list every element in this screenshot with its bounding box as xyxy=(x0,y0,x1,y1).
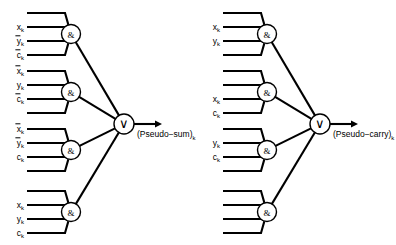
pseudo-carry-and-gate-2-input-label-3: xk xyxy=(213,94,221,105)
pseudo-carry-and-gate-2-input-label-4: ck xyxy=(213,108,221,119)
pseudo-sum-and-gate-3-input-label-1-text: xk xyxy=(17,124,25,135)
pseudo-sum-and-gate-3-input-label-1: xk xyxy=(15,124,25,135)
pseudo-sum-and-gate-3-input-label-2-text: yk xyxy=(17,138,25,149)
pseudo-sum-and-gate-3-input-label-2: yk xyxy=(15,138,25,149)
pseudo-sum-and-gate-1-input-label-4: ck xyxy=(15,50,25,61)
pseudo-carry-output-label: (Pseudo−carry)k xyxy=(333,129,395,141)
pseudo-sum-or-gate-or-symbol: ∨ xyxy=(119,116,129,131)
pseudo-carry-and-gate-1-input-label-3-text: yk xyxy=(213,36,221,47)
pseudo-carry-and-gate-3-output-wire xyxy=(276,128,311,145)
pseudo-carry-and-gate-3-and-symbol: & xyxy=(263,146,270,156)
pseudo-sum-and-gate-3-output-wire xyxy=(80,128,115,145)
pseudo-sum-and-gate-2: xkykck& xyxy=(15,66,115,119)
pseudo-carry-and-gate-2-input-label-4-text: ck xyxy=(213,108,221,119)
pseudo-carry-and-gate-4-input-wire-4 xyxy=(223,221,264,233)
pseudo-sum-and-gate-1-input-label-2-text: xk xyxy=(17,22,25,33)
pseudo-sum-and-gate-4-input-label-2-text: xk xyxy=(17,200,25,211)
pseudo-sum-and-gate-1-input-wire-1 xyxy=(27,13,68,25)
pseudo-sum-and-gate-2-input-label-1-text: xk xyxy=(17,66,25,77)
pseudo-sum-and-gate-4-input-label-3: yk xyxy=(17,214,25,225)
pseudo-sum-and-gate-4-input-label-4: ck xyxy=(17,228,25,239)
pseudo-sum-output-label: (Pseudo−sum)k xyxy=(137,129,197,141)
pseudo-sum-and-gate-4-input-label-3-text: yk xyxy=(17,214,25,225)
pseudo-sum-and-gate-4-input-wire-1 xyxy=(27,191,68,203)
pseudo-carry-output-arrowhead-icon xyxy=(351,120,358,127)
pseudo-carry-and-gate-4-output-wire xyxy=(272,133,315,204)
pseudo-sum-and-gate-4-input-wire-4 xyxy=(27,221,68,233)
pseudo-sum-and-gate-1-output-wire xyxy=(76,42,119,115)
pseudo-sum-and-gate-4-input-label-4-text: ck xyxy=(17,228,25,239)
pseudo-carry-and-gate-1-and-symbol: & xyxy=(263,30,270,40)
pseudo-sum-and-gate-1-input-label-2: xk xyxy=(17,22,25,33)
pseudo-carry-and-gate-3-input-label-3-text: ck xyxy=(213,152,221,163)
pseudo-sum-and-gate-4-and-symbol: & xyxy=(67,208,74,218)
pseudo-sum-and-gate-2-input-label-2: yk xyxy=(17,80,25,91)
pseudo-sum-and-gate-2-input-wire-1 xyxy=(27,71,68,83)
pseudo-carry-and-gate-1-input-label-2: xk xyxy=(213,22,221,33)
pseudo-sum-and-gate-3-input-wire-1 xyxy=(27,129,68,141)
pseudo-carry-and-gate-3-input-wire-1 xyxy=(223,129,264,141)
logic-diagram-figure: xkykck&xkykck&xkykck&xkykck&∨(Pseudo−sum… xyxy=(0,0,396,245)
pseudo-sum-and-gate-2-input-label-3: ck xyxy=(15,94,25,105)
pseudo-sum-and-gate-1-input-wire-4 xyxy=(27,43,68,55)
pseudo-sum-and-gate-1-input-label-3-text: yk xyxy=(17,36,25,47)
circuit-layer: xkykck&xkykck&xkykck&xkykck&∨(Pseudo−sum… xyxy=(15,13,395,239)
pseudo-sum-and-gate-2-input-label-3-text: ck xyxy=(17,94,25,105)
pseudo-sum-and-gate-4-output-wire xyxy=(76,133,119,204)
pseudo-carry: xkyk&xkck&ykck&&∨(Pseudo−carry)k xyxy=(213,13,396,233)
pseudo-carry-and-gate-3-input-label-3: ck xyxy=(213,152,221,163)
pseudo-carry-and-gate-3-input-label-2-text: yk xyxy=(213,138,221,149)
pseudo-sum-and-gate-3-input-label-3-text: ck xyxy=(17,152,25,163)
pseudo-carry-and-gate-2-and-symbol: & xyxy=(263,88,270,98)
pseudo-carry-and-gate-2-input-wire-4 xyxy=(223,101,264,113)
pseudo-sum-and-gate-1-input-label-3: yk xyxy=(15,36,25,47)
pseudo-carry-and-gate-1-input-wire-1 xyxy=(223,13,264,25)
pseudo-carry-and-gate-1-output-wire xyxy=(272,42,315,115)
pseudo-carry-and-gate-1-input-label-2-text: xk xyxy=(213,22,221,33)
pseudo-carry-or-gate-or-symbol: ∨ xyxy=(315,116,325,131)
pseudo-carry-and-gate-4-and-symbol: & xyxy=(263,208,270,218)
pseudo-carry-and-gate-1-input-wire-4 xyxy=(223,43,264,55)
pseudo-carry-and-gate-3-input-label-2: yk xyxy=(213,138,221,149)
pseudo-sum: xkykck&xkykck&xkykck&xkykck&∨(Pseudo−sum… xyxy=(15,13,196,239)
circuit-canvas: xkykck&xkykck&xkykck&xkykck&∨(Pseudo−sum… xyxy=(0,0,396,245)
pseudo-carry-and-gate-1-input-label-3: yk xyxy=(213,36,221,47)
pseudo-sum-and-gate-1-and-symbol: & xyxy=(67,30,74,40)
pseudo-sum-and-gate-3-input-label-3: ck xyxy=(17,152,25,163)
pseudo-sum-and-gate-3-input-wire-4 xyxy=(27,159,68,171)
pseudo-sum-and-gate-2-and-symbol: & xyxy=(67,88,74,98)
pseudo-sum-output-arrowhead-icon xyxy=(155,120,162,127)
pseudo-carry-and-gate-2-input-wire-1 xyxy=(223,71,264,83)
pseudo-sum-and-gate-2-input-wire-4 xyxy=(27,101,68,113)
pseudo-sum-and-gate-4-input-label-2: xk xyxy=(17,200,25,211)
pseudo-carry-and-gate-3-input-wire-4 xyxy=(223,159,264,171)
pseudo-carry-and-gate-2: xkck& xyxy=(213,71,312,119)
pseudo-sum-and-gate-1-input-label-4-text: ck xyxy=(17,50,25,61)
pseudo-sum-and-gate-2-input-label-2-text: yk xyxy=(17,80,25,91)
pseudo-sum-and-gate-3-and-symbol: & xyxy=(67,146,74,156)
pseudo-carry-and-gate-2-input-label-3-text: xk xyxy=(213,94,221,105)
pseudo-carry-and-gate-4-input-wire-1 xyxy=(223,191,264,203)
pseudo-sum-and-gate-2-input-label-1: xk xyxy=(15,66,25,77)
